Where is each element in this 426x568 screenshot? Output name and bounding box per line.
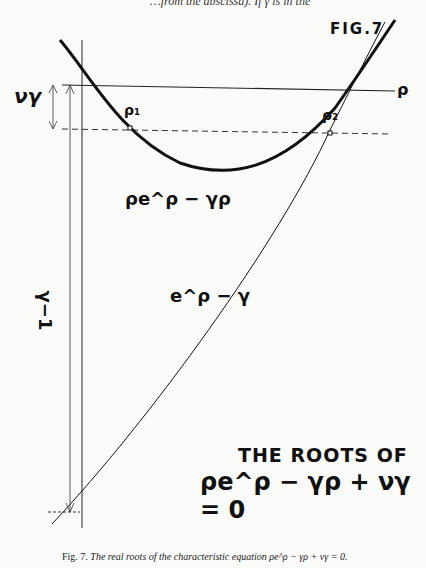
root-label-1: ρ₁ (124, 102, 140, 118)
curve-label-2: e^ρ − γ (170, 285, 250, 306)
root-label-2: ρ₂ (322, 107, 338, 123)
nu-gamma-label: νγ (14, 84, 41, 108)
caption-equation: ρe^ρ − γρ + νγ = 0. (269, 551, 347, 562)
curve-label-1: ρe^ρ − γρ (125, 188, 231, 209)
rho-axis (62, 85, 395, 91)
gamma-minus-1-label: γ−1 (35, 291, 56, 331)
figure-title-line-1: THE ROOTS OF (238, 444, 408, 466)
rho-axis-label: ρ (397, 80, 408, 99)
figure-caption: Fig. 7. The real roots of the characteri… (62, 551, 347, 562)
caption-text: The real roots of the characteristic equ… (90, 551, 266, 562)
root-marker-2 (328, 131, 332, 135)
dashed-level-line (62, 129, 392, 134)
curve-rho-e-rho (60, 20, 395, 170)
root-marker-1 (128, 126, 132, 130)
figure-label: FIG.7 (330, 20, 384, 38)
caption-prefix: Fig. 7. (62, 551, 88, 562)
figure-title-line-2: ρe^ρ − γρ + νγ = 0 (200, 468, 426, 524)
